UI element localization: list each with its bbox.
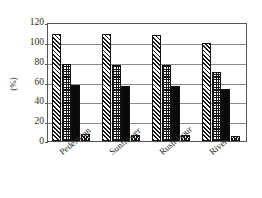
- x-axis-category-label: Pedestrian: [58, 126, 93, 157]
- x-axis-category-label: River: [208, 137, 229, 157]
- x-axis-category-labels: PedestrianSunflowerRush HourRiver: [0, 0, 262, 198]
- bar-chart: (%) 020406080100120 PedestrianSunflowerR…: [0, 0, 262, 198]
- x-axis-category-label: Sunflower: [108, 126, 143, 157]
- x-axis-category-label: Rush Hour: [158, 125, 194, 157]
